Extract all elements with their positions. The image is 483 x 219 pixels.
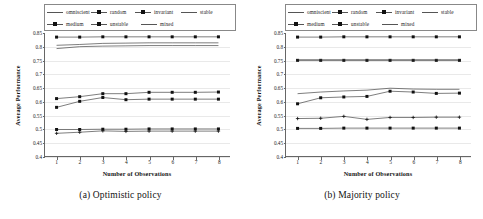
- legend-item-mixed[interactable]: mixed: [382, 20, 426, 29]
- legend-item-label: medium: [66, 20, 84, 29]
- x-axis-tick-label: 3: [102, 159, 105, 165]
- legend-marker-icon: [288, 20, 304, 29]
- legend-item-label: omniscient: [307, 8, 331, 17]
- data-point-marker: [388, 116, 391, 119]
- legend-marker-icon: [141, 20, 157, 29]
- legend-item-omniscient[interactable]: omniscient: [288, 8, 332, 17]
- x-axis-tick-mark: [173, 157, 174, 160]
- data-point-marker: [319, 59, 322, 62]
- data-point-marker: [171, 35, 174, 38]
- data-point-marker: [55, 106, 58, 109]
- legend-item-medium[interactable]: medium: [47, 20, 91, 29]
- data-point-marker: [365, 35, 368, 38]
- data-point-marker: [124, 35, 127, 38]
- x-axis-tick-mark: [414, 157, 415, 160]
- legend-item-unstable[interactable]: unstable: [332, 20, 382, 29]
- data-point-marker: [342, 95, 345, 98]
- data-point-marker: [389, 90, 392, 93]
- data-point-marker: [296, 127, 299, 130]
- y-axis-tick-label: 0.7: [36, 71, 42, 77]
- legend-item-mixed[interactable]: mixed: [141, 20, 185, 29]
- x-axis-tick-mark: [57, 157, 58, 160]
- legend-item-invariant[interactable]: invariant: [376, 8, 422, 17]
- x-axis-tick-mark: [219, 157, 220, 160]
- data-point-marker: [78, 95, 81, 98]
- data-point-marker: [101, 96, 104, 99]
- data-point-marker: [389, 127, 392, 130]
- data-point-marker: [148, 98, 151, 101]
- data-point-marker: [296, 117, 299, 120]
- data-point-marker: [458, 127, 461, 130]
- data-point-marker: [342, 127, 345, 130]
- gridline: [286, 157, 471, 158]
- x-axis-tick-mark: [80, 157, 81, 160]
- x-axis-tick-label: 2: [79, 159, 82, 165]
- legend-marker-icon: [332, 20, 348, 29]
- data-point-marker: [435, 59, 438, 62]
- legend-item-random[interactable]: random: [332, 8, 376, 17]
- legend-item-omniscient[interactable]: omniscient: [47, 8, 91, 17]
- legend-row: mediumunstablemixed: [288, 18, 474, 30]
- x-axis-tick-label: 4: [125, 159, 128, 165]
- data-point-marker: [319, 36, 322, 39]
- data-point-marker: [148, 91, 151, 94]
- legend-item-label: stable: [441, 8, 454, 17]
- legend-item-label: medium: [307, 20, 325, 29]
- data-point-marker: [194, 91, 197, 94]
- legend-item-unstable[interactable]: unstable: [91, 20, 141, 29]
- x-axis-tick-label: 1: [55, 159, 58, 165]
- data-point-marker: [171, 98, 174, 101]
- series-layer: [286, 33, 471, 156]
- data-point-marker: [55, 97, 58, 100]
- data-point-marker: [435, 116, 438, 119]
- legend-marker-icon: [382, 20, 398, 29]
- series-mixed: [57, 46, 219, 49]
- data-point-marker: [55, 128, 58, 131]
- legend-marker-icon: [47, 8, 63, 17]
- y-axis-tick-label: 0.65: [274, 85, 283, 91]
- data-point-marker: [458, 92, 461, 95]
- x-axis-tick-label: 5: [148, 159, 151, 165]
- data-point-marker: [342, 35, 345, 38]
- data-point-marker: [389, 35, 392, 38]
- x-axis-tick-mark: [126, 157, 127, 160]
- x-axis-label-b: Number of Observations: [285, 170, 471, 177]
- data-point-marker: [365, 95, 368, 98]
- data-point-marker: [389, 59, 392, 62]
- y-axis-tick-label: 0.65: [33, 85, 42, 91]
- x-axis-tick-label: 6: [413, 159, 416, 165]
- gridline: [45, 157, 230, 158]
- x-axis-tick-label: 8: [459, 159, 462, 165]
- x-axis-tick-mark: [196, 157, 197, 160]
- y-axis-tick-label: 0.85: [33, 30, 42, 36]
- legend-marker-icon: [47, 20, 63, 29]
- legend-item-label: stable: [200, 8, 213, 17]
- x-axis-tick-mark: [437, 157, 438, 160]
- data-point-marker: [412, 35, 415, 38]
- legend-marker-icon: [376, 8, 392, 17]
- legend-marker-icon: [288, 8, 304, 17]
- data-point-marker: [435, 92, 438, 95]
- legend-item-stable[interactable]: stable: [181, 8, 221, 17]
- y-axis-tick-label: 0.5: [36, 126, 42, 132]
- y-axis-label-b-text: Average Performance: [255, 65, 262, 125]
- legend-item-invariant[interactable]: invariant: [135, 8, 181, 17]
- y-axis-tick-label: 0.6: [36, 99, 42, 105]
- data-point-marker: [78, 36, 81, 39]
- data-point-marker: [217, 35, 220, 38]
- legend-item-label: unstable: [110, 20, 128, 29]
- data-point-marker: [78, 128, 81, 131]
- legend-marker-icon: [332, 8, 348, 17]
- legend-item-random[interactable]: random: [91, 8, 135, 17]
- data-point-marker: [101, 35, 104, 38]
- legend-row: omniscientrandominvariantstable: [47, 6, 233, 18]
- legend-item-medium[interactable]: medium: [288, 20, 332, 29]
- series-line: [57, 46, 219, 49]
- x-axis-label-a: Number of Observations: [44, 170, 230, 177]
- legend-item-label: invariant: [154, 8, 173, 17]
- y-axis-tick-mark: [43, 157, 46, 158]
- legend-item-stable[interactable]: stable: [422, 8, 462, 17]
- data-point-marker: [319, 127, 322, 130]
- series-line: [57, 43, 219, 45]
- plot-area-b: 0.850.80.750.70.650.60.550.50.450.412345…: [285, 33, 471, 157]
